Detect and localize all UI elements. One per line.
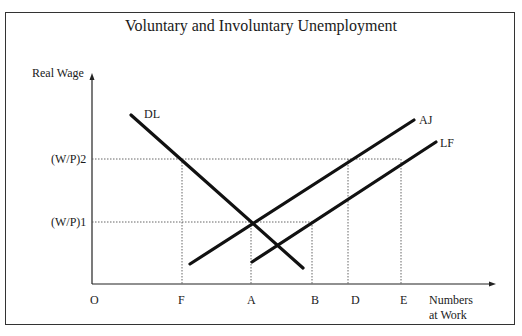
curve-label-DL: DL <box>144 107 160 122</box>
y-axis-arrow-icon <box>90 73 95 80</box>
x-tick-D: D <box>351 293 360 308</box>
x-tick-E: E <box>400 293 407 308</box>
diagram-canvas <box>0 0 522 336</box>
curves <box>131 115 436 268</box>
x-tick-F: F <box>178 293 185 308</box>
x-axis-arrow-icon <box>489 282 496 287</box>
axes <box>90 73 497 287</box>
y-tick-wp1: (W/P)1 <box>51 215 86 230</box>
y-axis-label: Real Wage <box>32 66 84 81</box>
x-axis-label-line1: Numbers <box>429 293 473 308</box>
curve-LF <box>252 142 436 262</box>
origin-label: O <box>90 293 99 308</box>
curve-label-LF: LF <box>440 136 454 151</box>
x-tick-B: B <box>311 293 319 308</box>
curve-AJ <box>190 120 414 264</box>
x-axis-label-line2: at Work <box>429 308 467 323</box>
curve-label-AJ: AJ <box>419 113 432 128</box>
guide-lines <box>92 159 401 284</box>
x-tick-A: A <box>247 293 256 308</box>
y-tick-wp2: (W/P)2 <box>51 152 86 167</box>
